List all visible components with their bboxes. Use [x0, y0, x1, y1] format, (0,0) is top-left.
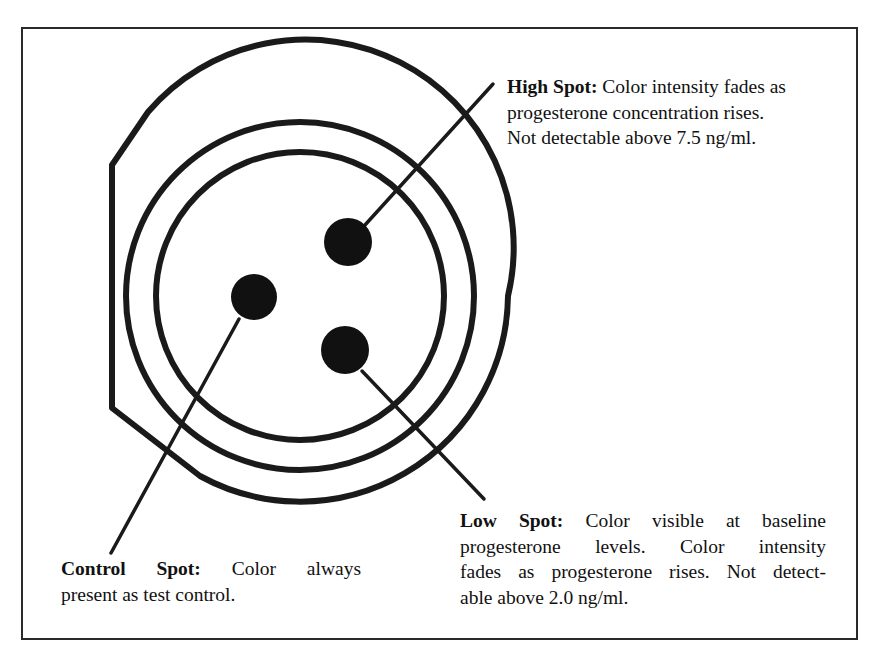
annotation-control-spot: Control Spot: Color always present as te… — [61, 556, 361, 607]
annotation-low-label: Low Spot: — [460, 510, 563, 531]
annotation-high-label: High Spot: — [507, 76, 597, 97]
annotation-high-line-2: progesterone concentration rises. — [507, 100, 849, 126]
annotation-low-line-3: fades as progesterone rises. Not detect- — [460, 559, 826, 585]
annotation-high-line-3: Not detectable above 7.5 ng/ml. — [507, 125, 849, 151]
annotation-control-line-2: present as test control. — [61, 582, 361, 608]
figure-root: High Spot: Color intensity fades as prog… — [0, 0, 879, 660]
annotation-high-line-1-rest: Color intensity fades as — [597, 76, 785, 97]
annotation-low-line-2: progesterone levels. Color intensity — [460, 534, 826, 560]
annotation-low-line-1: Low Spot: Color visible at baseline — [460, 508, 826, 534]
annotation-control-line-1: Control Spot: Color always — [61, 556, 361, 582]
annotation-control-label: Control Spot: — [61, 558, 201, 579]
annotation-control-line-1-rest: Color always — [201, 558, 361, 579]
annotation-high-spot: High Spot: Color intensity fades as prog… — [507, 74, 849, 151]
annotation-low-line-1-rest: Color visible at baseline — [563, 510, 826, 531]
annotation-low-spot: Low Spot: Color visible at baseline prog… — [460, 508, 826, 610]
annotation-high-line-1: High Spot: Color intensity fades as — [507, 74, 849, 100]
annotation-low-line-4: able above 2.0 ng/ml. — [460, 585, 826, 611]
